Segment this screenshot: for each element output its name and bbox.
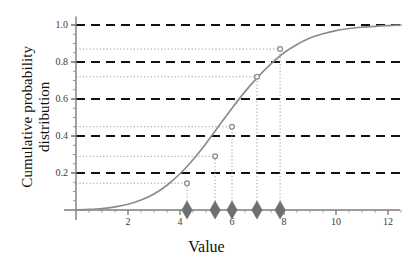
y-axis-title: Cumulative probability distribution [19,17,53,217]
y-axis-title-line-1: Cumulative probability [19,17,36,217]
x-tick-label: 2 [116,216,140,227]
x-tick-label: 12 [376,216,400,227]
x-tick-label: 8 [272,216,296,227]
chart-figure: 0.20.40.60.81.0 24681012 Cumulative prob… [0,0,413,271]
x-tick-label: 6 [220,216,244,227]
y-axis-title-line-2: distribution [36,17,53,217]
minor-reference-lines-group [76,49,280,183]
curve-group [76,25,401,210]
axis-group [64,16,401,220]
major-reference-lines-group [76,25,400,173]
x-axis-title: Value [0,238,413,256]
x-tick-label: 10 [324,216,348,227]
x-tick-label: 4 [168,216,192,227]
